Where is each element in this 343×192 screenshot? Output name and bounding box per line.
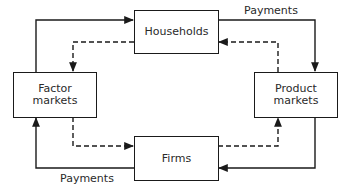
factor-markets-label-line2: markets	[33, 95, 78, 107]
firms-node: Firms	[134, 136, 219, 181]
arrow-firms-to-factor	[36, 118, 134, 168]
arrow-households-to-product	[218, 20, 315, 71]
product-markets-node: Product markets	[254, 72, 338, 118]
arrow-factor-to-households	[36, 20, 133, 72]
households-label: Households	[145, 26, 209, 38]
arrow-factor-to-firms	[73, 117, 133, 146]
firms-label: Firms	[162, 153, 191, 165]
factor-markets-node: Factor markets	[13, 72, 97, 118]
arrow-firms-to-product	[218, 118, 278, 146]
arrow-households-to-factor	[73, 42, 134, 71]
arrow-product-to-households	[219, 42, 278, 72]
payments-label-top: Payments	[244, 4, 298, 17]
arrow-product-to-firms	[219, 117, 315, 168]
product-markets-label-line2: markets	[274, 95, 319, 107]
households-node: Households	[134, 10, 219, 54]
payments-label-bottom: Payments	[60, 172, 114, 185]
